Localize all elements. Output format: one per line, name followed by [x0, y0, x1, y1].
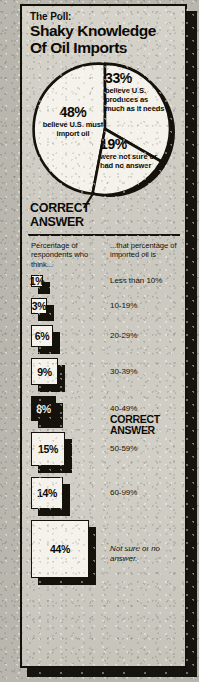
bar-value-label: 9%: [37, 366, 51, 378]
table-row: 14%60-99%: [22, 475, 187, 518]
page-title-line2: Of Oil Imports: [30, 40, 180, 57]
bar-box: 3%: [31, 298, 47, 314]
bar-box: 6%: [31, 325, 53, 347]
bar-value-label: 1%: [30, 275, 44, 287]
table-rows: 1%Less than 10%3%10-19%6%20-29%9%30-39%8…: [22, 273, 187, 587]
bar-box: 1%: [31, 275, 43, 287]
column-header-left: Percentage of respondents who think...: [31, 241, 103, 269]
pie-chart: 48% believe U.S. must import oil 33% bel…: [22, 58, 187, 208]
bar-category-label: Less than 10%: [110, 276, 180, 286]
bar-category-label: 60-99%: [110, 488, 180, 498]
bar-value-label: 44%: [50, 543, 70, 555]
table-row: 15%50-59%: [22, 430, 187, 475]
bar-chart-table: Percentage of respondents who think... .…: [22, 239, 187, 587]
title-block: The Poll: Shaky Knowledge Of Oil Imports: [30, 11, 180, 56]
bar-box-wrapper: 15%: [31, 432, 73, 474]
bar-box: 15%: [31, 432, 65, 466]
pie-label-19: 19% were not sure or had no answer: [100, 136, 162, 170]
bar-category-label: 20-29%: [110, 331, 180, 341]
bar-category-label: 10-19%: [110, 301, 180, 311]
pie-label-48-text: believe U.S. must import oil: [42, 120, 104, 138]
table-header-row: Percentage of respondents who think... .…: [22, 239, 187, 273]
poll-infographic: The Poll: Shaky Knowledge Of Oil Imports…: [0, 0, 199, 682]
bar-category-label: Not sure or no answer.: [110, 544, 180, 564]
bar-box-wrapper: 14%: [31, 477, 71, 517]
bar-value-label: 3%: [32, 300, 46, 312]
table-row: 44%Not sure or no answer.: [22, 518, 187, 587]
pie-label-19-text: were not sure or had no answer: [100, 152, 162, 170]
bar-value-label: 8%: [36, 403, 50, 415]
pie-label-48: 48% believe U.S. must import oil: [42, 104, 104, 138]
pie-label-33: 33% believe U.S. produces as much as it …: [105, 70, 167, 114]
pie-label-19-value: 19%: [100, 136, 162, 152]
bar-category-label: 50-59%: [110, 444, 180, 454]
bar-box-wrapper: 3%: [31, 298, 55, 322]
bar-box-wrapper: 44%: [31, 520, 97, 586]
bar-category-label: 30-39%: [110, 367, 180, 377]
bar-value-label: 6%: [35, 330, 49, 342]
bar-box-wrapper: 9%: [31, 358, 66, 393]
poll-panel: The Poll: Shaky Knowledge Of Oil Imports…: [20, 4, 187, 668]
section-divider: [28, 234, 180, 236]
bar-box: 14%: [31, 477, 63, 509]
bar-box: 9%: [31, 358, 58, 385]
callout-line-1: CORRECT: [30, 202, 180, 216]
pie-label-33-text: believe U.S. produces as much as it need…: [105, 86, 167, 114]
page-title-line1: Shaky Knowledge: [30, 23, 180, 40]
bar-value-label: 15%: [38, 443, 58, 455]
pie-label-48-value: 48%: [42, 104, 104, 120]
table-row: 6%20-29%: [22, 323, 187, 356]
bar-value-label: 14%: [37, 487, 57, 499]
bar-box: 44%: [31, 520, 89, 578]
bar-box-wrapper: 6%: [31, 325, 61, 355]
correct-answer-callout: CORRECT ANSWER: [30, 202, 180, 229]
table-row: 3%10-19%: [22, 296, 187, 323]
table-row: 1%Less than 10%: [22, 273, 187, 296]
column-header-right: ...that percentage of imported oil is: [110, 241, 182, 260]
bar-box-wrapper: 1%: [31, 275, 51, 295]
bar-box: 8%: [31, 396, 56, 421]
callout-line-2: ANSWER: [30, 216, 180, 230]
pie-label-33-value: 33%: [105, 70, 167, 86]
bar-box-wrapper: 8%: [31, 396, 64, 429]
table-row: 9%30-39%: [22, 356, 187, 394]
table-row: 8%40-49%CORRECT ANSWER: [22, 394, 187, 430]
